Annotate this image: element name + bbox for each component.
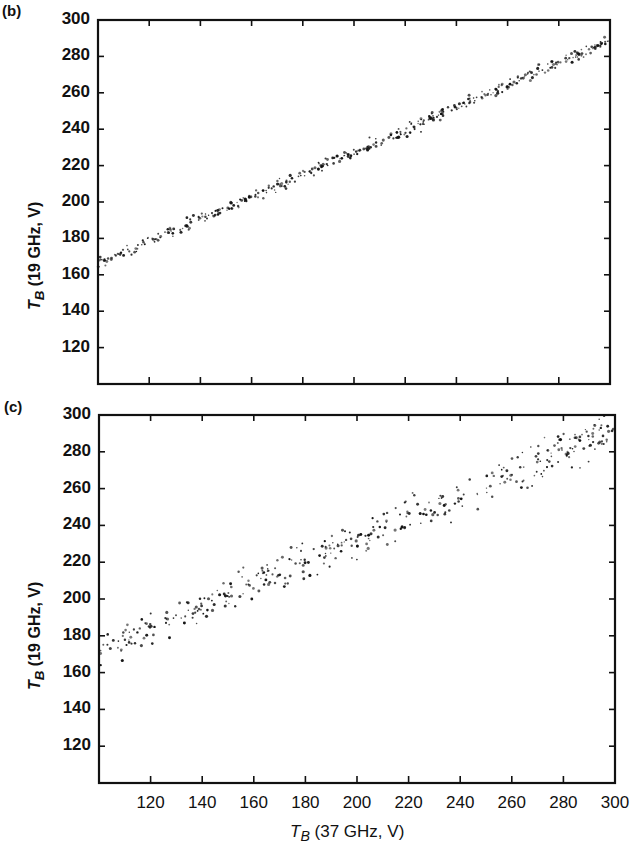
data-point [333, 157, 335, 159]
data-point [124, 639, 126, 641]
data-point [564, 57, 567, 60]
data-point [372, 143, 375, 146]
data-point [165, 622, 167, 624]
data-point [592, 435, 595, 438]
data-point [506, 478, 508, 480]
x-axis-label-text: (37 GHz, V) [310, 822, 404, 841]
data-point [537, 452, 540, 455]
data-point [208, 215, 209, 216]
y-tick-label: 240 [46, 118, 90, 138]
data-point [226, 210, 227, 211]
data-point [129, 632, 131, 634]
data-point [238, 595, 241, 598]
y-tick-label: 220 [47, 551, 91, 571]
data-point [574, 445, 577, 448]
data-point [501, 84, 503, 86]
data-point [422, 123, 424, 125]
data-point [102, 644, 104, 646]
data-point [588, 439, 589, 440]
data-point [568, 57, 570, 59]
data-point [307, 561, 310, 564]
data-point [419, 123, 421, 125]
data-point [509, 478, 512, 481]
data-point [469, 98, 470, 99]
data-point [394, 540, 396, 542]
data-point [234, 605, 236, 607]
data-point [347, 155, 350, 158]
data-point [499, 483, 501, 485]
data-point [436, 116, 438, 118]
data-point [228, 208, 230, 210]
data-point [539, 460, 541, 462]
data-point [106, 644, 108, 646]
y-tick-label: 240 [47, 514, 91, 534]
data-point [100, 650, 102, 652]
data-point [405, 500, 407, 502]
data-point [285, 187, 288, 190]
data-point [473, 102, 475, 104]
data-point [239, 199, 241, 201]
data-point [592, 428, 594, 430]
data-point [175, 614, 177, 616]
data-point [457, 497, 460, 500]
panel-label-c: (c) [4, 398, 22, 415]
data-point [587, 435, 589, 437]
data-point [204, 215, 207, 218]
data-point [168, 624, 170, 626]
data-point [321, 170, 323, 172]
data-point [356, 153, 358, 155]
data-point [228, 596, 230, 598]
data-point [575, 54, 577, 56]
data-point [413, 494, 415, 496]
data-point [218, 212, 221, 215]
data-point [339, 158, 340, 159]
data-point [420, 117, 423, 120]
data-point [204, 220, 206, 222]
data-point [122, 635, 124, 637]
data-point [143, 637, 146, 640]
data-point [353, 153, 355, 155]
data-point [433, 511, 436, 514]
data-point [350, 155, 352, 157]
x-tick-label: 220 [387, 793, 431, 813]
data-point [134, 247, 137, 250]
data-point [375, 141, 377, 143]
data-point [546, 466, 548, 468]
data-point [440, 113, 442, 115]
data-point [468, 478, 471, 481]
data-point [489, 485, 492, 488]
y-tick-label: 220 [46, 155, 90, 175]
data-point [229, 582, 232, 585]
data-point [232, 204, 235, 207]
data-point [351, 545, 353, 547]
data-point [323, 556, 326, 559]
data-point [187, 601, 190, 604]
data-point [540, 473, 542, 475]
data-point [211, 212, 213, 214]
data-point [558, 439, 560, 441]
data-point [165, 611, 168, 614]
data-point [230, 586, 233, 589]
data-point [311, 168, 314, 171]
data-point [601, 443, 603, 445]
data-point [353, 149, 355, 151]
data-point [325, 546, 327, 548]
data-point [299, 562, 301, 564]
data-point [368, 136, 370, 138]
data-point [522, 480, 524, 482]
data-point [439, 119, 442, 122]
y-tick-label: 160 [47, 662, 91, 682]
data-point [599, 45, 601, 47]
data-point [436, 514, 439, 517]
data-point [608, 40, 610, 42]
data-point [438, 502, 441, 505]
x-tick-label: 260 [490, 793, 534, 813]
data-point [594, 448, 596, 450]
data-point [211, 609, 214, 612]
data-point [565, 55, 566, 56]
data-point [575, 56, 577, 58]
data-point [294, 562, 296, 564]
data-point [128, 250, 130, 252]
data-point [355, 151, 357, 153]
data-point [188, 609, 190, 611]
